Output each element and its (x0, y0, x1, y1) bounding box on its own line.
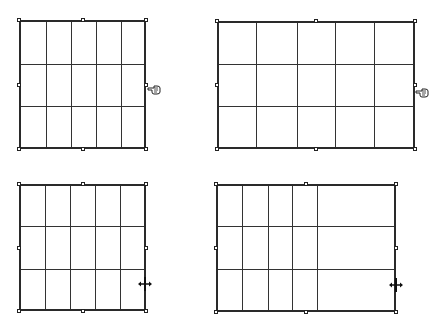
selection-handle[interactable] (17, 83, 21, 87)
selection-handle[interactable] (394, 246, 398, 250)
selection-handle[interactable] (215, 83, 219, 87)
selection-handle[interactable] (394, 182, 398, 186)
selection-handle[interactable] (144, 147, 148, 151)
selection-handle[interactable] (215, 147, 219, 151)
row-divider (21, 226, 144, 227)
row-divider (218, 269, 394, 270)
selection-handle[interactable] (144, 309, 148, 313)
column-divider[interactable] (71, 22, 72, 147)
table-top-left[interactable] (19, 20, 146, 149)
selection-handle[interactable] (214, 310, 218, 314)
column-divider[interactable] (317, 186, 318, 310)
move-resize-icon (389, 278, 403, 296)
column-divider[interactable] (256, 23, 257, 147)
selection-handle[interactable] (304, 310, 308, 314)
column-divider[interactable] (120, 186, 121, 309)
row-divider (21, 64, 144, 65)
selection-handle[interactable] (394, 310, 398, 314)
selection-handle[interactable] (144, 18, 148, 22)
selection-handle[interactable] (413, 19, 417, 23)
hand-pointer-icon (147, 81, 163, 99)
selection-handle[interactable] (215, 19, 219, 23)
selection-handle[interactable] (81, 182, 85, 186)
selection-handle[interactable] (17, 246, 21, 250)
selection-handle[interactable] (214, 182, 218, 186)
column-divider[interactable] (268, 186, 269, 310)
selection-handle[interactable] (314, 19, 318, 23)
row-divider (219, 64, 413, 65)
row-divider (21, 269, 144, 270)
selection-handle[interactable] (17, 147, 21, 151)
column-divider[interactable] (45, 186, 46, 309)
selection-handle[interactable] (17, 182, 21, 186)
row-divider (21, 106, 144, 107)
column-divider[interactable] (121, 22, 122, 147)
selection-handle[interactable] (144, 182, 148, 186)
selection-handle[interactable] (81, 309, 85, 313)
selection-handle[interactable] (17, 309, 21, 313)
selection-handle[interactable] (144, 246, 148, 250)
row-divider (218, 226, 394, 227)
column-divider[interactable] (297, 23, 298, 147)
hand-pointer-icon (415, 84, 431, 102)
column-divider[interactable] (242, 186, 243, 310)
column-divider[interactable] (95, 186, 96, 309)
table-top-right[interactable] (217, 21, 415, 149)
column-divider[interactable] (96, 22, 97, 147)
selection-handle[interactable] (81, 147, 85, 151)
selection-handle[interactable] (304, 182, 308, 186)
selection-handle[interactable] (214, 246, 218, 250)
column-divider[interactable] (335, 23, 336, 147)
column-divider[interactable] (374, 23, 375, 147)
column-divider[interactable] (70, 186, 71, 309)
selection-handle[interactable] (17, 18, 21, 22)
selection-handle[interactable] (81, 18, 85, 22)
column-divider[interactable] (46, 22, 47, 147)
row-divider (219, 106, 413, 107)
table-bottom-right[interactable] (216, 184, 396, 312)
table-bottom-left[interactable] (19, 184, 146, 311)
selection-handle[interactable] (314, 147, 318, 151)
selection-handle[interactable] (413, 147, 417, 151)
move-resize-icon (138, 277, 152, 295)
column-divider[interactable] (292, 186, 293, 310)
